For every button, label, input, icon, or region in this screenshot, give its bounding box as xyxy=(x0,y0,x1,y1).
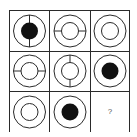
cell-r2-c2-missing[interactable]: ? xyxy=(90,91,130,131)
circle-filled-vertical-icon xyxy=(9,11,49,51)
cell-r2-c0 xyxy=(9,91,49,131)
puzzle-grid: ? xyxy=(9,10,130,132)
cell-r0-c1 xyxy=(50,11,90,51)
circle-ring-icon xyxy=(90,11,130,51)
cell-r0-c0 xyxy=(9,11,49,51)
circle-ring-horizontal-icon xyxy=(9,51,49,91)
question-mark: ? xyxy=(90,91,130,131)
circle-filled-icon xyxy=(90,51,130,91)
cell-r1-c0 xyxy=(9,51,49,91)
cell-r0-c2 xyxy=(90,11,130,51)
circle-filled-icon xyxy=(50,91,90,131)
circle-ring-icon xyxy=(9,91,49,131)
cell-r1-c2 xyxy=(90,51,130,91)
cell-r1-c1 xyxy=(50,51,90,91)
cell-r2-c1 xyxy=(50,91,90,131)
circle-ring-vertical-icon xyxy=(50,51,90,91)
circle-ring-horizontal-icon xyxy=(50,11,90,51)
